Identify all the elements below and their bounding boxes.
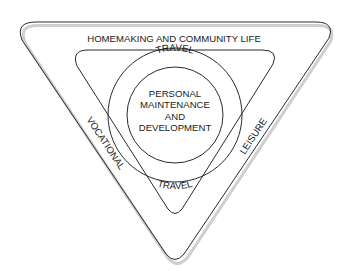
core-line-2: MAINTENANCE: [140, 99, 210, 110]
core-line-3: AND: [165, 111, 185, 122]
travel-bottom-label: TRAVEL: [156, 178, 194, 192]
core-line-4: DEVELOPMENT: [139, 122, 212, 133]
life-domains-diagram: HOMEMAKING AND COMMUNITY LIFE TRAVEL TRA…: [0, 0, 344, 271]
core-line-1: PERSONAL: [149, 88, 202, 99]
outer-triangle-shadow: [23, 26, 332, 264]
outer-triangle: [20, 22, 330, 260]
